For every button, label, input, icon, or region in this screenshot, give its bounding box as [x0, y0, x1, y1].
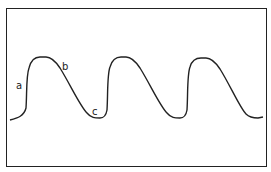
- waveform-diagram: a b c: [0, 0, 271, 172]
- label-b: b: [62, 61, 68, 72]
- waveform-line: [10, 57, 263, 120]
- label-a: a: [16, 80, 22, 91]
- label-c: c: [92, 106, 98, 117]
